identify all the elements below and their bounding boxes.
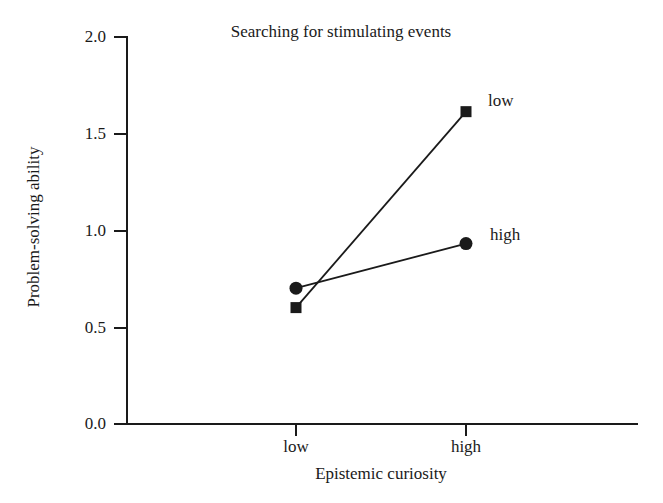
data-point-low-high xyxy=(461,106,472,117)
data-point-low-low xyxy=(291,302,302,313)
data-point-high-low xyxy=(290,282,303,295)
plot-area xyxy=(0,0,663,503)
series-layer xyxy=(290,106,473,313)
series-line-high xyxy=(296,244,466,289)
data-point-high-high xyxy=(460,237,473,250)
figure-canvas: Searching for stimulating events Problem… xyxy=(0,0,663,503)
series-line-low xyxy=(296,112,466,308)
